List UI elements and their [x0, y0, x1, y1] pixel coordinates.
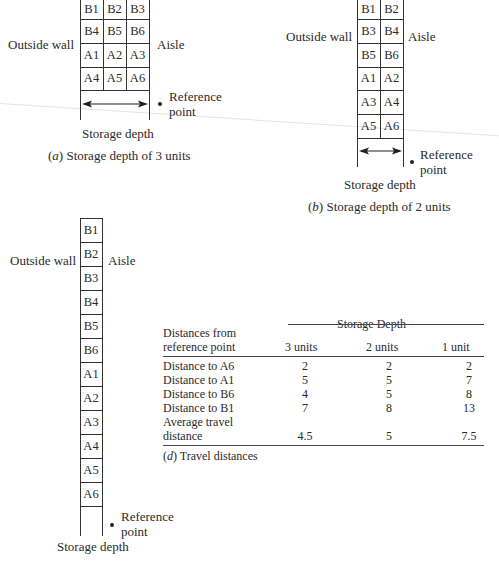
reference-label: Reference: [121, 509, 174, 524]
storage-cell: B4: [380, 19, 403, 43]
storage-cell: B1: [80, 0, 103, 19]
double-arrow-icon: [80, 97, 150, 111]
outside-wall-label: Outside wall: [10, 253, 76, 268]
cell-value: 5: [290, 373, 320, 387]
storage-cell: A6: [380, 114, 403, 138]
storage-cell: B3: [126, 0, 149, 19]
storage-cell: A5: [80, 458, 102, 482]
row-header-line2: reference point: [163, 340, 235, 354]
storage-cell: B6: [126, 19, 149, 43]
cell-value: 13: [454, 401, 484, 415]
aisle-label: Aisle: [157, 37, 184, 52]
point-label: point: [420, 162, 447, 177]
caption-text: Storage depth of 3 units: [63, 148, 190, 163]
storage-cell: B1: [80, 218, 102, 242]
reference-point-dot: [410, 160, 414, 164]
cell-value: 7: [290, 401, 320, 415]
cell-value: 5: [374, 387, 404, 401]
outside-wall-label: Outside wall: [286, 29, 352, 44]
avg-value: 5: [374, 429, 404, 443]
reference-label: Reference: [420, 147, 473, 162]
column-header-3-units: 3 units: [285, 340, 317, 354]
storage-cell: B4: [80, 19, 103, 43]
storage-cell: B5: [103, 19, 126, 43]
storage-cell: A5: [357, 114, 380, 138]
row-label: Distance to A1: [163, 373, 234, 387]
cell-value: 2: [454, 359, 484, 373]
bottom-rule: [163, 445, 484, 446]
storage-cell: B6: [380, 43, 403, 67]
storage-cell: A3: [80, 410, 102, 434]
reference-point-dot: [110, 523, 114, 527]
storage-cell: B2: [80, 242, 102, 266]
row-label: Distance to B1: [163, 401, 234, 415]
caption-a: (a) Storage depth of 3 units: [48, 148, 191, 163]
reference-point-dot: [158, 102, 162, 106]
header-rule: [163, 356, 484, 357]
scan-artifact-line: [0, 103, 499, 136]
storage-cell: A1: [80, 43, 103, 67]
storage-cell: A2: [103, 43, 126, 67]
grid-line: [403, 0, 404, 167]
reference-label: Reference: [169, 89, 222, 104]
cell-value: 7: [454, 373, 484, 387]
cell-value: 8: [454, 387, 484, 401]
point-label: point: [169, 104, 196, 119]
storage-cell: A3: [126, 43, 149, 67]
storage-cell: B5: [80, 314, 102, 338]
cell-value: 5: [374, 373, 404, 387]
aisle-label: Aisle: [408, 29, 435, 44]
caption-letter: a: [52, 148, 59, 163]
grid-line: [80, 506, 103, 507]
caption-b: (b) Storage depth of 2 units: [308, 199, 451, 214]
caption-letter: d: [167, 449, 173, 463]
storage-cell: A6: [80, 482, 102, 506]
cell-value: 8: [374, 401, 404, 415]
avg-label-line2: distance: [163, 429, 202, 443]
storage-cell: A1: [357, 67, 380, 90]
storage-cell: B4: [80, 290, 102, 314]
grid-line: [80, 90, 150, 91]
cell-value: 4: [290, 387, 320, 401]
storage-cell: B2: [103, 0, 126, 19]
storage-cell: A1: [80, 362, 102, 386]
caption-text: Storage depth of 2 units: [323, 199, 450, 214]
storage-cell: A4: [80, 434, 102, 458]
row-label: Distance to B6: [163, 387, 234, 401]
caption-d: (d) Travel distances: [163, 449, 258, 463]
row-header-line1: Distances from: [163, 326, 236, 340]
avg-value: 7.5: [454, 429, 484, 443]
storage-cell: B5: [357, 43, 380, 67]
avg-label-line1: Average travel: [163, 415, 233, 429]
caption-letter: b: [312, 199, 319, 214]
storage-cell: B1: [357, 0, 380, 19]
storage-cell: A4: [80, 67, 103, 90]
cell-value: 2: [290, 359, 320, 373]
storage-cell: A5: [103, 67, 126, 90]
storage-depth-label: Storage depth: [57, 539, 129, 554]
storage-cell: B3: [80, 266, 102, 290]
row-label: Distance to A6: [163, 359, 234, 373]
storage-cell: A4: [380, 90, 403, 114]
column-header-2-units: 2 units: [366, 340, 398, 354]
storage-cell: A2: [380, 67, 403, 90]
storage-cell: B6: [80, 338, 102, 362]
aisle-label: Aisle: [108, 253, 135, 268]
column-header-1-unit: 1 unit: [442, 340, 470, 354]
outside-wall-label: Outside wall: [8, 37, 74, 52]
double-arrow-icon: [357, 144, 404, 158]
storage-cell: A2: [80, 386, 102, 410]
storage-cell: B3: [357, 19, 380, 43]
storage-cell: A6: [126, 67, 149, 90]
group-header-rule: [288, 324, 484, 325]
storage-depth-label: Storage depth: [344, 177, 416, 192]
storage-cell: B2: [380, 0, 403, 19]
storage-cell: A3: [357, 90, 380, 114]
storage-depth-label: Storage depth: [82, 126, 154, 141]
avg-value: 4.5: [290, 429, 320, 443]
point-label: point: [121, 524, 148, 539]
caption-text: Travel distances: [177, 449, 258, 463]
cell-value: 2: [374, 359, 404, 373]
grid-line: [357, 138, 404, 139]
